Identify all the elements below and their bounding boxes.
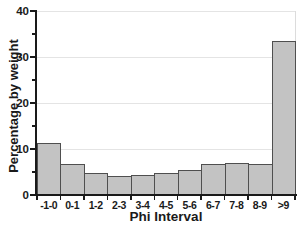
bar-chart: Percentage by weight Phi Interval 010203… [0,0,306,229]
bar-8-9 [248,164,272,195]
bar-1-2 [84,173,108,195]
bar->9 [272,41,296,195]
bar-0-1 [60,164,84,195]
y-axis-line [35,10,37,196]
y-tick-label-40: 40 [2,4,29,19]
bar-5-6 [178,170,202,195]
gridline-20 [37,103,296,104]
gridline-30 [37,57,296,58]
bar-3-4 [131,175,155,195]
y-tick-label-10: 10 [2,142,29,157]
bar--1-0 [37,143,61,195]
bar-2-3 [107,176,131,195]
bar-4-5 [154,173,178,195]
x-tick-label->9: >9 [267,199,299,211]
y-tick-label-0: 0 [2,188,29,203]
y-tick-label-30: 30 [2,50,29,65]
y-tick-label-20: 20 [2,96,29,111]
gridline-10 [37,149,296,150]
x-axis-title: Phi Interval [106,209,226,224]
gridline-40 [37,11,296,12]
x-axis-line [35,194,297,196]
bar-6-7 [201,164,225,195]
bar-7-8 [225,163,249,195]
